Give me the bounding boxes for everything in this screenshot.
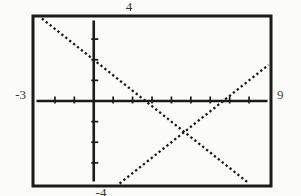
xmax-label: 9: [277, 88, 291, 101]
line-increasing: [120, 65, 269, 184]
graph-canvas: [0, 0, 301, 196]
ymin-label: -4: [88, 186, 114, 196]
ymax-label: 4: [119, 0, 139, 13]
xmin-label: -3: [5, 88, 26, 101]
calculator-graph-figure: 4 -3 9 -4: [0, 0, 301, 196]
